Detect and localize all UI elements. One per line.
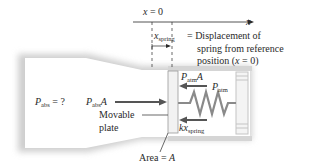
force-atm-label: PatmA <box>181 72 203 85</box>
displacement-description-line2: spring from reference <box>197 44 284 54</box>
pressure-abs-unknown-label: Pabs = ? <box>35 97 65 110</box>
force-spring-label: kxspring <box>179 123 204 136</box>
displacement-symbol: xspring <box>154 31 175 44</box>
pressure-atm-label: Patm <box>212 82 228 95</box>
displacement-description-line1: = Displacement of <box>187 31 261 41</box>
movable-plate-label-line2: plate <box>99 123 118 133</box>
movable-plate <box>168 71 178 133</box>
end-cap <box>236 72 248 134</box>
area-label: Area = A <box>139 153 175 163</box>
piston-diagram-graphic <box>0 0 309 168</box>
movable-plate-label-line1: Movable <box>99 110 135 120</box>
x-axis-label: x <box>246 17 250 27</box>
displacement-arrowhead <box>166 44 171 48</box>
displacement-description-line3: position (x = 0) <box>197 56 259 66</box>
origin-label: x = 0 <box>143 7 163 17</box>
